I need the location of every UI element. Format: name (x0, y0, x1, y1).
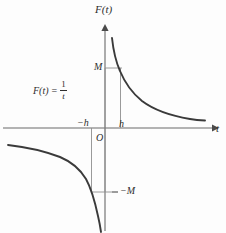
equation-fraction: 1 t (59, 80, 68, 101)
y-axis-label: F(t) (95, 4, 112, 15)
hyperbola-branch-negative (8, 145, 101, 232)
abscissa-label-negative-h: −h (77, 118, 89, 128)
equation-lhs: F(t) (33, 85, 49, 96)
equation-numerator: 1 (59, 80, 68, 90)
equation-denominator: t (60, 90, 67, 101)
hyperbola-curve (8, 38, 205, 232)
origin-label: O (96, 133, 103, 143)
ordinate-label-M: M (94, 62, 102, 72)
hyperbola-figure: F(t) t M −M −h h O F(t) = 1 t (0, 0, 226, 233)
t-axis (3, 124, 219, 131)
equation-equals: = (52, 85, 58, 96)
abscissa-label-h: h (119, 119, 124, 129)
ordinate-label-negative-M: −M (120, 186, 135, 196)
graph-canvas (0, 0, 226, 233)
x-axis-label: t (216, 123, 219, 134)
equation-annotation: F(t) = 1 t (33, 80, 68, 101)
f-axis-arrowhead (101, 24, 108, 31)
hyperbola-branch-positive (112, 38, 205, 121)
